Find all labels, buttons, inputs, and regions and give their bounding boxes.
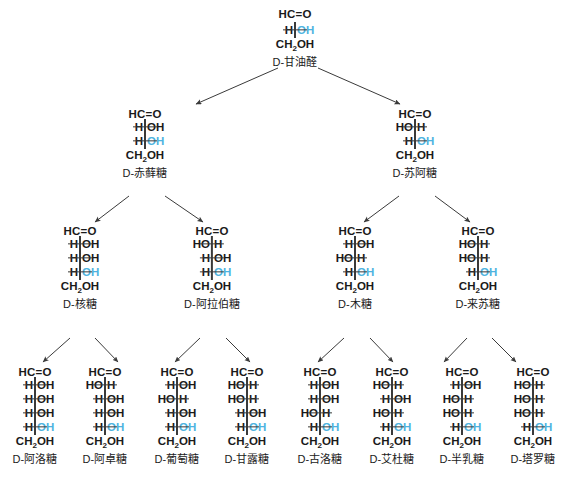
hydroxymethyl-group: CH2OH [7,435,63,448]
horizontal-bond [165,384,189,385]
stereocenter-row: HOH [77,406,133,420]
horizontal-bond [93,384,117,385]
arrow-d-arabinose-to-d-glucose [175,338,200,362]
horizontal-bond [450,412,474,413]
molecule-d-mannose: HC=OHOHHOHHOHHOHCH2OHD-甘露糖 [219,366,275,466]
horizontal-bond [343,257,367,258]
hydroxymethyl-group: CH2OH [52,280,108,293]
horizontal-bond [93,398,117,399]
horizontal-bond [68,271,92,272]
molecule-label-d-idose: D-艾杜糖 [364,450,420,466]
horizontal-bond [466,257,490,258]
molecule-d-glyceraldehyde: HC=OHOHCH2OHD-甘油醛 [267,8,323,69]
horizontal-bond [380,412,404,413]
molecule-d-galactose: HC=OHOHHOHHOHHOHCH2OHD-半乳糖 [434,366,490,466]
stereocenter-row: HOH [364,406,420,420]
molecule-label-d-threose: D-苏阿糖 [387,164,443,180]
arrow-d-threose-to-d-xylose [364,196,399,222]
horizontal-bond [343,271,367,272]
molecule-d-gulose: HC=OHOHHOHHOHHOHCH2OHD-古洛糖 [292,366,348,466]
hydroxymethyl-group: CH2OH [292,435,348,448]
arrow-d-threose-to-d-lyxose [435,196,470,222]
arrow-d-lyxose-to-d-talose [492,338,516,362]
stereocenter-stack: HOHHOHHOH [327,237,383,279]
stereocenter-row: HOH [505,378,561,392]
stereocenter-row: HOH [7,392,63,406]
stereocenter-row: HOH [77,420,133,434]
horizontal-bond [200,257,224,258]
stereocenter-stack: HOHHOHHOH [184,237,240,279]
hydroxymethyl-group: CH2OH [387,149,443,162]
stereocenter-row: HOH [184,251,240,265]
stereocenter-row: HOH [292,406,348,420]
stereocenter-row: HOH [149,378,205,392]
stereocenter-row: HOH [77,392,133,406]
arrow-d-arabinose-to-d-mannose [226,338,250,362]
fischer-projection-d-ribose: HC=OHOHHOHHOHCH2OH [52,225,108,293]
stereocenter-stack: HOHHOHHOHHOH [149,378,205,434]
arrows [43,68,516,362]
stereocenter-row: HOH [7,406,63,420]
horizontal-bond [521,398,545,399]
stereocenter-row: HOH [292,392,348,406]
horizontal-bond [133,126,157,127]
hydroxymethyl-group: CH2OH [267,38,323,51]
horizontal-bond [343,243,367,244]
hydroxymethyl-group: CH2OH [364,435,420,448]
stereocenter-row: HOH [434,392,490,406]
molecule-label-d-xylose: D-木糖 [327,295,383,311]
hydroxymethyl-group: CH2OH [219,435,275,448]
arrow-d-erythrose-to-d-arabinose [165,196,203,222]
horizontal-bond [521,384,545,385]
molecule-label-d-altrose: D-阿卓糖 [77,450,133,466]
horizontal-bond [23,384,47,385]
stereocenter-row: HOH [117,120,173,134]
molecule-d-talose: HC=OHOHHOHHOHHOHCH2OHD-塔罗糖 [505,366,561,466]
fischer-projection-d-mannose: HC=OHOHHOHHOHHOHCH2OH [219,366,275,448]
fischer-projection-d-erythrose: HC=OHOHHOHCH2OH [117,108,173,162]
stereocenter-row: HOH [505,406,561,420]
aldose-family-tree-diagram: HC=OHOHCH2OHD-甘油醛HC=OHOHHOHCH2OHD-赤藓糖HC=… [0,0,572,496]
stereocenter-row: HOH [364,392,420,406]
stereocenter-row: HOH [219,392,275,406]
molecule-d-glucose: HC=OHOHHOHHOHHOHCH2OHD-葡萄糖 [149,366,205,466]
horizontal-bond [380,384,404,385]
horizontal-bond [308,398,332,399]
molecule-label-d-glyceraldehyde: D-甘油醛 [267,53,323,69]
fischer-projection-d-allose: HC=OHOHHOHHOHHOHCH2OH [7,366,63,448]
stereocenter-stack: HOHHOH [387,120,443,148]
horizontal-bond [200,271,224,272]
molecule-label-d-mannose: D-甘露糖 [219,450,275,466]
horizontal-bond [235,426,259,427]
molecule-d-ribose: HC=OHOHHOHHOHCH2OHD-核糖 [52,225,108,311]
stereocenter-row: HOH [387,134,443,148]
molecule-label-d-lyxose: D-来苏糖 [450,295,506,311]
stereocenter-row: HOH [327,237,383,251]
molecule-d-arabinose: HC=OHOHHOHHOHCH2OHD-阿拉伯糖 [184,225,240,311]
molecule-label-d-gulose: D-古洛糖 [292,450,348,466]
stereocenter-stack: HOHHOHHOHHOH [364,378,420,434]
arrow-d-ribose-to-d-allose [43,338,70,362]
stereocenter-row: HOH [52,237,108,251]
hydroxymethyl-group: CH2OH [149,435,205,448]
stereocenter-stack: HOHHOHHOHHOH [77,378,133,434]
stereocenter-row: HOH [364,378,420,392]
hydroxymethyl-group: CH2OH [117,149,173,162]
molecule-label-d-talose: D-塔罗糖 [505,450,561,466]
stereocenter-row: HOH [292,378,348,392]
stereocenter-row: HOH [7,420,63,434]
molecule-d-xylose: HC=OHOHHOHHOHCH2OHD-木糖 [327,225,383,311]
stereocenter-row: HOH [267,23,323,37]
stereocenter-stack: HOHHOHHOHHOH [434,378,490,434]
hydroxymethyl-group: CH2OH [184,280,240,293]
fischer-projection-d-threose: HC=OHOHHOHCH2OH [387,108,443,162]
stereocenter-row: HOH [450,265,506,279]
stereocenter-row: HOH [505,420,561,434]
arrow-d-erythrose-to-d-ribose [95,196,129,222]
hydroxymethyl-group: CH2OH [505,435,561,448]
horizontal-bond [308,384,332,385]
horizontal-bond [308,426,332,427]
stereocenter-row: HOH [77,378,133,392]
horizontal-bond [93,426,117,427]
horizontal-bond [93,412,117,413]
